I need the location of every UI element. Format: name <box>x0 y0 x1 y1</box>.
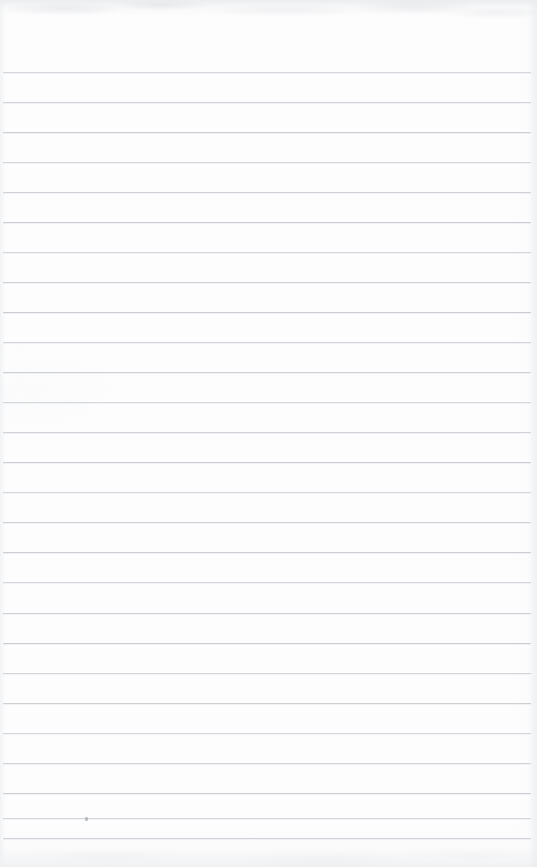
scanned-page <box>0 0 537 867</box>
page-writing-area[interactable] <box>3 72 531 842</box>
